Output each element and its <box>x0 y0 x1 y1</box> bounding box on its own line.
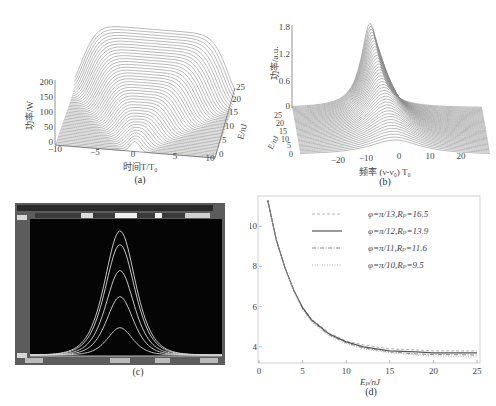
b-ytick: 0.6 <box>279 76 291 86</box>
caption-d: (d) <box>360 386 382 397</box>
a-ytick: 200 <box>40 77 54 87</box>
b-xtick: 0 <box>397 151 402 161</box>
d-xtick: 25 <box>473 366 483 376</box>
a-xtick: 5 <box>173 151 178 161</box>
d-xtick: 20 <box>429 366 439 376</box>
panel-d-line-chart: 051015202546810 φ=π/13,Rₚ=16.5φ=π/12,Rₚ=… <box>250 190 496 406</box>
d-ytick: 4 <box>253 342 258 352</box>
panel-c-screen <box>15 203 225 365</box>
a-xlabel: 时间T/T₀ <box>123 161 158 172</box>
a-ztick: 25 <box>236 82 246 92</box>
b-ytick: 1.8 <box>279 22 291 32</box>
legend-label: φ=π/10,Rₚ=9.5 <box>368 260 424 270</box>
panel-a-temporal-surface: 200 150 100 50 0 −10 −5 0 5 10 0 5 10 15… <box>0 0 250 195</box>
d-ytick: 10 <box>250 221 258 231</box>
b-xtick: 20 <box>457 151 467 161</box>
a-ztick: 20 <box>232 94 242 104</box>
legend-label: φ=π/11,Rₚ=11.6 <box>368 243 427 253</box>
b-surface-line <box>293 32 483 110</box>
b-surface-line <box>292 29 482 109</box>
caption-a: (a) <box>130 174 150 185</box>
d-series-line <box>268 200 477 351</box>
panel-a-plot: 200 150 100 50 0 −10 −5 0 5 10 0 5 10 15… <box>0 0 250 195</box>
a-ztick: 5 <box>222 135 227 145</box>
a-ztick: 10 <box>225 121 235 131</box>
legend-label: φ=π/13,Rₚ=16.5 <box>368 209 429 219</box>
d-ytick: 8 <box>253 261 258 271</box>
d-ytick: 6 <box>253 302 258 312</box>
a-ytick: 50 <box>44 122 54 132</box>
a-surface-line <box>72 44 232 109</box>
b-ylabel: 功率/a.u. <box>269 47 280 81</box>
b-ztick: 5 <box>287 141 291 150</box>
b-surface-line <box>295 61 485 122</box>
a-ytick: 150 <box>40 92 54 102</box>
b-ytick: 0 <box>286 101 291 111</box>
caption-b: (b) <box>375 176 395 187</box>
a-surface-line <box>70 59 230 117</box>
a-ytick: 100 <box>40 107 54 117</box>
panel-c-oscilloscope <box>15 203 225 365</box>
d-xtick: 5 <box>300 366 305 376</box>
d-series-line <box>268 200 477 357</box>
d-xtick: 10 <box>342 366 352 376</box>
b-xtick: −20 <box>331 155 346 165</box>
b-ytick: 1.2 <box>279 49 290 59</box>
a-ztick: 0 <box>219 149 224 159</box>
panel-d-plot: 051015202546810 φ=π/13,Rₚ=16.5φ=π/12,Rₚ=… <box>250 190 496 406</box>
b-surface-line <box>292 26 482 108</box>
b-ztick: 0 <box>289 150 293 159</box>
panel-b-plot: 1.8 1.2 0.6 0 25 20 15 10 5 0 E/nJ −20 −… <box>250 0 496 195</box>
a-ztick: 15 <box>229 107 239 117</box>
scope-display <box>30 219 222 356</box>
d-series-line <box>268 200 477 353</box>
a-ylabel: 功率/W <box>24 100 35 130</box>
d-xtick: 0 <box>257 366 262 376</box>
panel-b-spectral-surface: 1.8 1.2 0.6 0 25 20 15 10 5 0 E/nJ −20 −… <box>250 0 496 195</box>
b-xtick: −10 <box>359 153 374 163</box>
a-xtick: −5 <box>90 147 100 157</box>
d-series-line <box>268 200 477 355</box>
b-zlabel: E/nJ <box>266 134 281 151</box>
b-surface-line <box>292 23 482 107</box>
a-zlabel: E/nJ <box>235 122 249 141</box>
b-xtick: 10 <box>426 151 436 161</box>
legend-label: φ=π/12,Rₚ=13.9 <box>368 226 429 236</box>
caption-c: (c) <box>128 366 148 377</box>
a-surface-line <box>71 50 231 112</box>
b-surface-line <box>293 35 483 112</box>
a-xtick: 0 <box>131 149 136 159</box>
b-surface-line <box>297 99 487 136</box>
d-xtick: 15 <box>385 366 395 376</box>
a-xtick: 10 <box>206 153 216 163</box>
a-xtick: −10 <box>48 144 63 154</box>
